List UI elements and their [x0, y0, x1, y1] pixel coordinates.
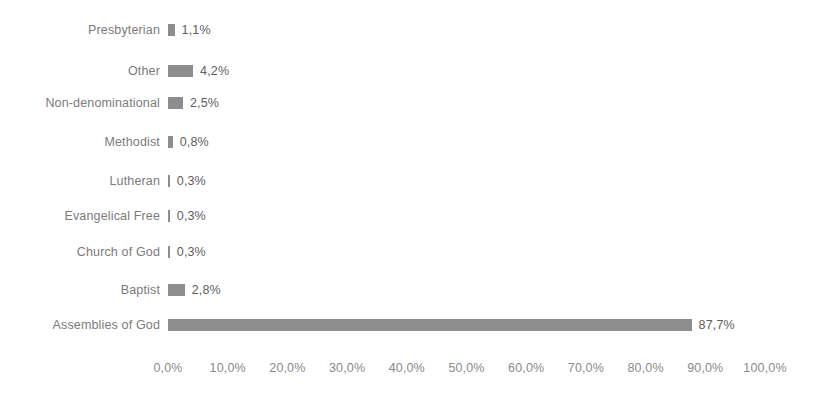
bar-value-label: 0,3% [177, 241, 206, 263]
bar-value-label: 0,3% [177, 205, 206, 227]
bar-row: Church of God0,3% [0, 241, 813, 263]
x-axis-tick-label: 70,0% [568, 357, 604, 379]
bar[interactable] [168, 175, 170, 187]
x-axis-tick-label: 60,0% [508, 357, 544, 379]
category-label: Evangelical Free [0, 205, 160, 227]
x-axis-tick-label: 50,0% [448, 357, 484, 379]
bar-value-label: 0,8% [180, 131, 209, 153]
bar-chart: Presbyterian1,1%Other4,2%Non-denominatio… [0, 0, 813, 404]
category-label: Church of God [0, 241, 160, 263]
bar[interactable] [168, 210, 170, 222]
x-axis-tick-label: 80,0% [627, 357, 663, 379]
x-axis-tick-label: 20,0% [269, 357, 305, 379]
bar-value-label: 1,1% [182, 19, 211, 41]
bar-value-label: 4,2% [200, 60, 229, 82]
bar[interactable] [168, 284, 185, 296]
x-axis: 0,0%10,0%20,0%30,0%40,0%50,0%60,0%70,0%8… [0, 357, 813, 379]
x-axis-tick-label: 100,0% [743, 357, 786, 379]
category-label: Non-denominational [0, 92, 160, 114]
category-label: Other [0, 60, 160, 82]
bar[interactable] [168, 136, 173, 148]
category-label: Assemblies of God [0, 314, 160, 336]
bar[interactable] [168, 97, 183, 109]
bar-row: Other4,2% [0, 60, 813, 82]
bar[interactable] [168, 24, 175, 36]
bar-row: Presbyterian1,1% [0, 19, 813, 41]
category-label: Methodist [0, 131, 160, 153]
x-axis-tick-label: 40,0% [389, 357, 425, 379]
category-label: Baptist [0, 279, 160, 301]
plot-area: Presbyterian1,1%Other4,2%Non-denominatio… [0, 0, 813, 404]
bar-row: Baptist2,8% [0, 279, 813, 301]
x-axis-tick-label: 10,0% [210, 357, 246, 379]
bar-row: Lutheran0,3% [0, 170, 813, 192]
x-axis-tick-label: 90,0% [687, 357, 723, 379]
bar-row: Methodist0,8% [0, 131, 813, 153]
x-axis-tick-label: 30,0% [329, 357, 365, 379]
bar-value-label: 2,8% [192, 279, 221, 301]
bar-row: Non-denominational2,5% [0, 92, 813, 114]
bar-value-label: 87,7% [699, 314, 735, 336]
bar-row: Assemblies of God87,7% [0, 314, 813, 336]
bar-row: Evangelical Free0,3% [0, 205, 813, 227]
x-axis-tick-label: 0,0% [153, 357, 182, 379]
bar[interactable] [168, 319, 692, 331]
bar-value-label: 0,3% [177, 170, 206, 192]
bar[interactable] [168, 65, 193, 77]
bar-value-label: 2,5% [190, 92, 219, 114]
category-label: Lutheran [0, 170, 160, 192]
bar[interactable] [168, 246, 170, 258]
category-label: Presbyterian [0, 19, 160, 41]
